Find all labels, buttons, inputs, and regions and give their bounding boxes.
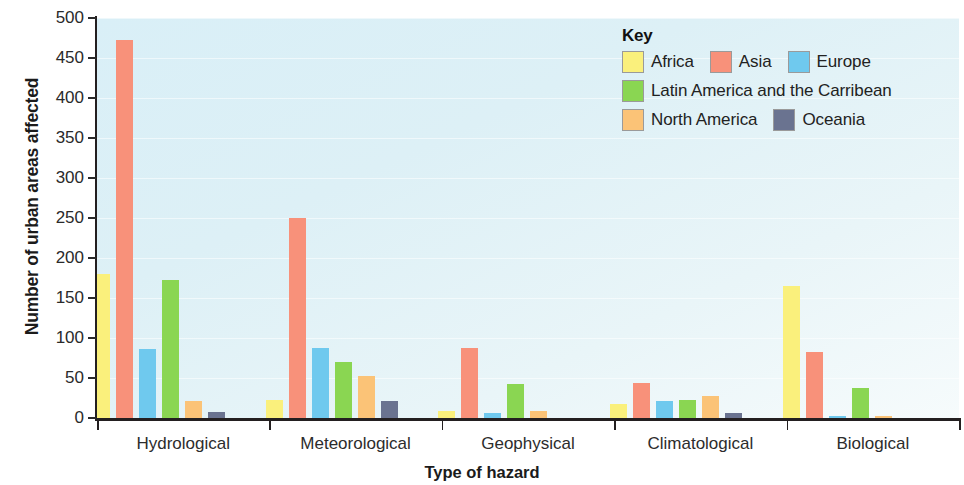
y-tick-label: 500 [36,9,84,26]
bar [312,348,329,418]
y-tick-mark [88,137,96,139]
y-tick-mark [88,17,96,19]
y-tick-mark [88,177,96,179]
x-tick-label: Biological [787,434,959,454]
y-tick-mark [88,57,96,59]
x-tick-mark [442,418,444,430]
bar [162,280,179,418]
bar [289,218,306,418]
bar [266,400,283,418]
legend-item[interactable]: Europe [788,51,871,73]
y-tick-label: 50 [36,369,84,386]
bar [335,362,352,418]
y-tick-label: 300 [36,169,84,186]
y-axis-tick-labels: 500450400350300250200150100500 [36,0,84,430]
x-tick-mark [97,418,99,430]
bar [116,40,133,418]
bar-group [97,18,269,418]
legend-label: Europe [817,52,871,72]
y-tick-mark [88,217,96,219]
legend: Key AfricaAsiaEuropeLatin America and th… [622,26,958,138]
legend-swatch-icon [788,51,810,73]
legend-swatch-icon [622,51,644,73]
x-axis-title: Type of hazard [0,463,964,482]
legend-label: Asia [739,52,772,72]
y-tick-mark [88,337,96,339]
legend-row: AfricaAsiaEurope [622,51,958,73]
legend-swatch-icon [622,80,644,102]
bar [656,401,673,418]
x-tick-mark [614,418,616,430]
y-tick-mark [88,257,96,259]
x-tick-mark [787,418,789,430]
y-tick-label: 350 [36,129,84,146]
bar [438,411,455,418]
bar [679,400,696,418]
bar [806,352,823,418]
bar [702,396,719,418]
bar [185,401,202,418]
x-tick-mark [269,418,271,430]
legend-label: Latin America and the Carribean [651,81,892,101]
y-tick-mark [88,97,96,99]
legend-item[interactable]: Latin America and the Carribean [622,80,892,102]
bar [530,411,547,418]
bar [633,383,650,418]
legend-row: North AmericaOceania [622,109,958,131]
x-tick-mark [959,418,961,430]
legend-swatch-icon [622,109,644,131]
x-tick-label: Meteorological [269,434,441,454]
legend-item[interactable]: Asia [710,51,772,73]
bar [97,274,110,418]
bar [381,401,398,418]
bar [610,404,627,418]
y-tick-mark [88,377,96,379]
legend-label: North America [651,110,757,130]
x-tick-label: Climatological [614,434,786,454]
bar [783,286,800,418]
y-tick-label: 100 [36,329,84,346]
y-tick-mark [88,417,96,419]
bar [358,376,375,418]
bar [507,384,524,418]
bar [461,348,478,418]
y-tick-label: 250 [36,209,84,226]
y-tick-mark [88,297,96,299]
y-tick-label: 200 [36,249,84,266]
legend-row: Latin America and the Carribean [622,80,958,102]
legend-item[interactable]: Africa [622,51,694,73]
legend-swatch-icon [773,109,795,131]
y-tick-label: 400 [36,89,84,106]
bar-chart: Number of urban areas affected 500450400… [0,0,964,485]
bar-group [269,18,441,418]
bar [139,349,156,418]
legend-title: Key [622,26,958,46]
x-tick-label: Hydrological [97,434,269,454]
legend-label: Oceania [802,110,865,130]
x-tick-label: Geophysical [442,434,614,454]
legend-items: AfricaAsiaEuropeLatin America and the Ca… [622,51,958,131]
bar-group [442,18,614,418]
y-tick-label: 150 [36,289,84,306]
bar [852,388,869,418]
legend-item[interactable]: North America [622,109,757,131]
y-tick-label: 450 [36,49,84,66]
legend-swatch-icon [710,51,732,73]
legend-item[interactable]: Oceania [773,109,865,131]
legend-label: Africa [651,52,694,72]
